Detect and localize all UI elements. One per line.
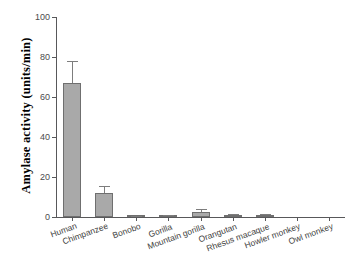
y-axis-tick bbox=[52, 57, 56, 58]
error-bar-cap bbox=[260, 214, 271, 215]
error-bar-cap bbox=[163, 215, 174, 216]
y-axis-tick bbox=[52, 17, 56, 18]
y-axis-tick bbox=[52, 97, 56, 98]
error-bar-cap bbox=[131, 216, 142, 217]
error-bar-stem bbox=[104, 186, 105, 193]
y-axis-tick-label: 60 bbox=[10, 92, 50, 102]
plot-area: 020406080100 bbox=[56, 17, 345, 217]
y-axis-tick-label: 80 bbox=[10, 52, 50, 62]
amylase-activity-bar-chart: Amylase activity (units/min) 02040608010… bbox=[0, 0, 353, 264]
error-bar-stem bbox=[72, 61, 73, 83]
error-bar-cap bbox=[196, 209, 207, 210]
error-bar-cap bbox=[67, 61, 78, 62]
y-axis-title: Amylase activity (units/min) bbox=[19, 16, 34, 216]
error-bar-cap bbox=[228, 214, 239, 215]
y-axis-tick bbox=[52, 137, 56, 138]
y-axis-line bbox=[56, 17, 57, 217]
y-axis-tick-label: 40 bbox=[10, 132, 50, 142]
y-axis-tick-label: 0 bbox=[10, 212, 50, 222]
bar bbox=[192, 212, 210, 217]
x-axis-tick-labels: HumanChimpanzeeBonoboGorillaMountain gor… bbox=[56, 219, 353, 264]
error-bar-cap bbox=[99, 186, 110, 187]
bar bbox=[95, 193, 113, 217]
x-axis-tick-label: Bonobo bbox=[111, 221, 142, 240]
y-axis-tick-label: 20 bbox=[10, 172, 50, 182]
y-axis-tick bbox=[52, 217, 56, 218]
bar bbox=[63, 83, 81, 217]
y-axis-tick bbox=[52, 177, 56, 178]
y-axis-tick-label: 100 bbox=[10, 12, 50, 22]
